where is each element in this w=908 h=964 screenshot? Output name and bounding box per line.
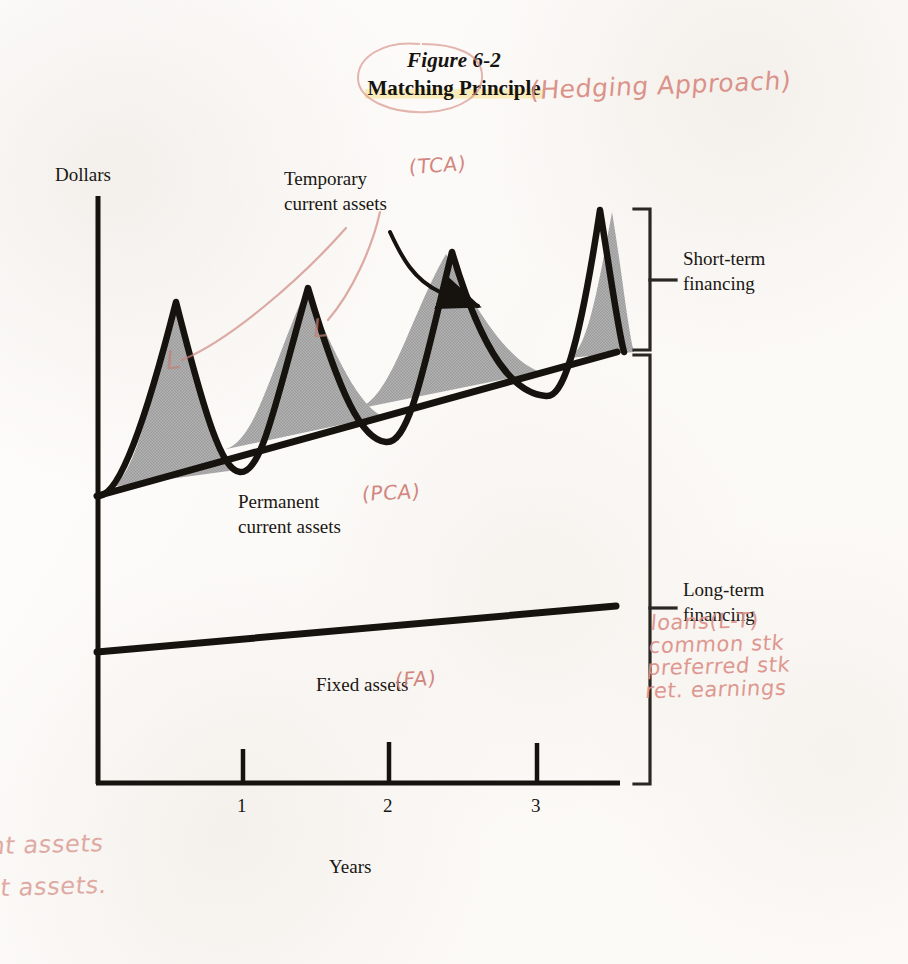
permanent-current-assets-label-line2: current assets xyxy=(238,515,341,540)
fixed-assets-line xyxy=(97,606,616,652)
handwriting-tca: (TCA) xyxy=(408,151,467,179)
x-axis-ticks xyxy=(243,742,537,783)
figure-chart xyxy=(0,0,908,964)
y-axis-label: Dollars xyxy=(55,163,111,188)
handwriting-bottom-notes: rent assets rent assets. xyxy=(0,822,114,910)
short-term-financing-label: Short-term financing xyxy=(683,247,765,296)
x-tick-label-1: 1 xyxy=(237,795,247,817)
short-term-financing-label-line2: financing xyxy=(683,272,765,297)
handwriting-peak-mark-1: L xyxy=(165,344,182,375)
short-term-financing-bracket xyxy=(634,209,676,350)
short-term-financing-label-line1: Short-term xyxy=(683,247,765,272)
temporary-current-assets-label-line2: current assets xyxy=(284,192,387,217)
x-tick-label-3: 3 xyxy=(531,795,541,817)
temporary-current-assets-label-line1: Temporary xyxy=(284,167,387,192)
handwriting-long-term-sources: loans(L-T) common stk preferred stk ret.… xyxy=(644,608,795,702)
x-axis-label: Years xyxy=(329,855,371,880)
permanent-current-assets-label-line1: Permanent xyxy=(238,490,341,515)
x-tick-label-2: 2 xyxy=(383,795,393,817)
handwriting-long-term-source-3: ret. earnings xyxy=(644,677,789,703)
handwriting-pca: (PCA) xyxy=(361,479,421,506)
temporary-current-assets-label: Temporary current assets xyxy=(284,167,387,216)
permanent-current-assets-label: Permanent current assets xyxy=(238,490,341,539)
figure-page: Figure 6-2 Matching Principle (Hedging A… xyxy=(0,0,908,964)
long-term-financing-label-line1: Long-term xyxy=(683,578,764,603)
long-term-financing-bracket xyxy=(634,355,676,784)
handwriting-bottom-note-0: rent assets xyxy=(0,822,114,868)
handwriting-bottom-note-1: rent assets. xyxy=(0,864,110,910)
handwriting-fa: (FA) xyxy=(394,666,437,692)
handwriting-peak-mark-2: L xyxy=(312,312,329,343)
